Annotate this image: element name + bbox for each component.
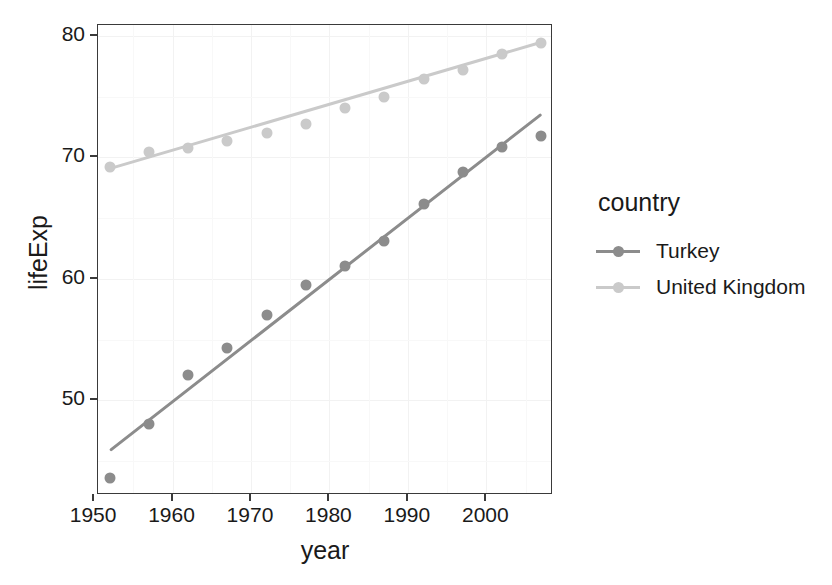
data-point [379,236,390,247]
legend: country TurkeyUnited Kingdom [596,188,805,305]
x-tick-mark [249,494,251,501]
y-tick-label: 60 [62,265,85,289]
data-point [340,103,351,114]
legend-key-icon [596,276,640,298]
y-tick-mark [90,155,97,157]
legend-key-dot [613,282,624,293]
gridline [251,25,252,493]
gridline [173,25,174,493]
gridline [486,25,487,493]
x-tick-label: 1960 [132,503,212,527]
x-tick-label: 2000 [445,503,525,527]
legend-item-turkey[interactable]: Turkey [596,233,805,269]
trend-line-united-kingdom [109,41,541,170]
data-point [222,342,233,353]
data-point [340,261,351,272]
data-point [300,279,311,290]
y-axis-title: lifeExp [24,193,53,313]
gridline [329,25,330,493]
legend-item-label: United Kingdom [656,275,805,299]
gridline [98,400,551,401]
data-point [104,162,115,173]
x-tick-mark [92,494,94,501]
data-point [183,143,194,154]
data-point [143,147,154,158]
data-point [183,369,194,380]
y-tick-label: 70 [62,143,85,167]
y-tick-mark [90,398,97,400]
data-point [497,49,508,60]
data-point [379,91,390,102]
y-tick-label: 50 [62,386,85,410]
gridline [133,25,134,493]
data-point [143,418,154,429]
y-tick-label: 80 [62,22,85,46]
legend-key-dot [613,246,624,257]
gridline [447,25,448,493]
x-axis-title: year [225,536,425,565]
x-tick-label: 1950 [53,503,133,527]
gridline [290,25,291,493]
y-tick-mark [90,277,97,279]
data-point [418,199,429,210]
data-point [457,64,468,75]
data-point [261,310,272,321]
gridline [98,97,551,98]
legend-items: TurkeyUnited Kingdom [596,233,805,305]
x-tick-mark [171,494,173,501]
x-tick-mark [484,494,486,501]
data-point [418,74,429,85]
x-tick-label: 1990 [367,503,447,527]
gridline [98,218,551,219]
gridline [408,25,409,493]
x-tick-label: 1980 [288,503,368,527]
data-point [104,473,115,484]
gridline [98,461,551,462]
plot-panel [97,24,552,494]
data-point [261,127,272,138]
legend-item-label: Turkey [656,239,719,263]
gridline [98,340,551,341]
scatter-chart: 50607080 195019601970198019902000 lifeEx… [0,0,832,585]
x-tick-mark [327,494,329,501]
data-point [222,135,233,146]
data-point [457,166,468,177]
legend-item-united-kingdom[interactable]: United Kingdom [596,269,805,305]
x-tick-label: 1970 [210,503,290,527]
y-tick-mark [90,34,97,36]
gridline [212,25,213,493]
gridline [526,25,527,493]
data-point [300,118,311,129]
gridline [98,36,551,37]
x-tick-mark [406,494,408,501]
gridline [369,25,370,493]
legend-title: country [598,188,805,217]
data-point [497,142,508,153]
data-point [536,130,547,141]
legend-key-icon [596,240,640,262]
data-point [536,37,547,48]
